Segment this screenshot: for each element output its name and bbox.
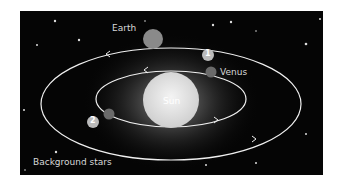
- arrow-icon: [252, 136, 256, 142]
- venus-planet-position-2: [104, 109, 115, 120]
- sun-label: Sun: [163, 96, 180, 106]
- solar-system-diagram: Earth Venus Sun Background stars 1 2: [20, 11, 323, 175]
- diagram-graphics: [20, 11, 323, 175]
- venus-label: Venus: [220, 67, 247, 77]
- earth-label: Earth: [112, 23, 136, 33]
- marker-1-label: 1: [205, 49, 211, 58]
- background-stars-label: Background stars: [33, 157, 112, 167]
- marker-2-label: 2: [90, 116, 96, 125]
- venus-planet: [206, 67, 217, 78]
- earth-planet: [143, 29, 163, 49]
